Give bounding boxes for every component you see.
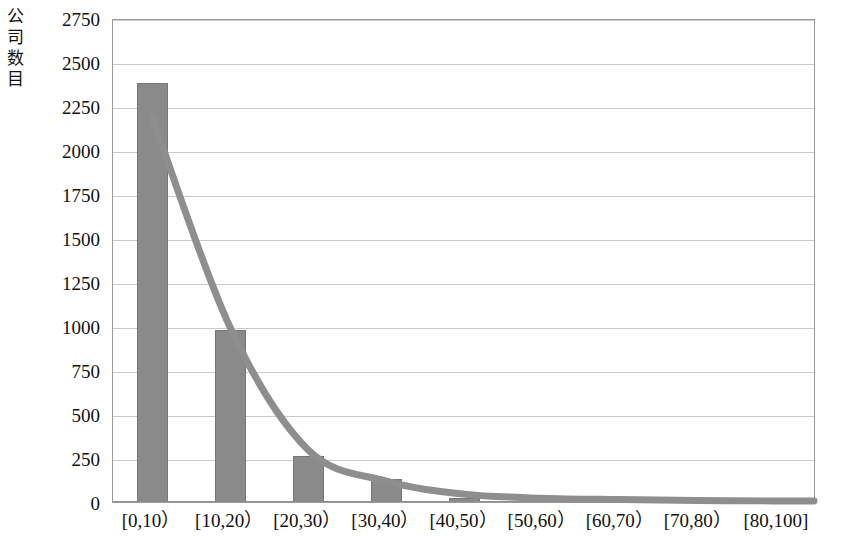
y-axis-tick-labels: 0250500750100012501500175020002250250027… (28, 0, 106, 544)
y-axis-tick-label: 750 (72, 362, 101, 381)
trend-line-series (113, 20, 814, 502)
x-axis-tick-label: [60,70） (586, 508, 654, 534)
x-axis-tick-label: [80,100] (743, 508, 808, 534)
x-axis-tick-label: [10,20） (195, 508, 263, 534)
plot-area (112, 19, 815, 503)
y-axis-tick-label: 500 (72, 406, 101, 425)
chart-container: 公司数目 02505007501000125015001750200022502… (0, 0, 846, 544)
y-axis-tick-label: 2250 (62, 98, 100, 117)
y-axis-tick-label: 0 (91, 494, 101, 513)
y-axis-tick-label: 1000 (62, 318, 100, 337)
y-axis-tick-label: 2750 (62, 10, 100, 29)
y-axis-tick-label: 2000 (62, 142, 100, 161)
x-axis-tick-label: [40,50） (429, 508, 497, 534)
x-axis-tick-labels: [0,10）[10,20）[20,30）[30,40）[40,50）[50,60… (112, 508, 815, 544)
x-axis-tick-label: [20,30） (273, 508, 341, 534)
y-axis-tick-label: 1250 (62, 274, 100, 293)
trend-line-path (152, 116, 814, 501)
y-axis-tick-label: 1750 (62, 186, 100, 205)
x-axis-tick-label: [50,60） (508, 508, 576, 534)
x-axis-baseline (113, 501, 814, 502)
y-axis-tick-label: 2500 (62, 54, 100, 73)
y-axis-title: 公司数目 (2, 6, 28, 90)
x-axis-tick-label: [70,80） (664, 508, 732, 534)
y-axis-tick-label: 250 (72, 450, 101, 469)
x-axis-tick-label: [0,10） (122, 508, 181, 534)
y-axis-tick-label: 1500 (62, 230, 100, 249)
x-axis-tick-label: [30,40） (351, 508, 419, 534)
